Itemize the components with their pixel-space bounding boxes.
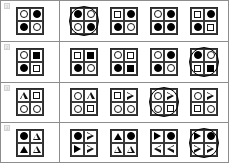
matrix-cell (17, 49, 30, 62)
triangle-right-filled-icon (194, 132, 201, 140)
matrix-cell (151, 62, 164, 75)
matrix-cell (124, 8, 137, 21)
answer-option-d[interactable] (188, 46, 220, 78)
answer-option-b[interactable] (108, 127, 140, 159)
triangle-open-icon (20, 92, 28, 99)
matrix-test-sheet: 1234 (0, 0, 229, 163)
matrix-cell (30, 89, 43, 102)
matrix-cell (151, 89, 164, 102)
circle-open-icon (154, 92, 162, 100)
matrix-cell (17, 62, 30, 75)
question-matrix (16, 129, 44, 157)
square-open-icon (114, 92, 121, 99)
matrix-cell (191, 49, 204, 62)
matrix-cell (111, 21, 124, 34)
matrix-cell (164, 8, 177, 21)
matrix-cell (84, 102, 97, 115)
option-matrix[interactable] (190, 129, 218, 157)
square-open-icon (87, 105, 94, 112)
option-matrix[interactable] (110, 7, 138, 35)
option-matrix[interactable] (70, 129, 98, 157)
matrix-cell (204, 89, 217, 102)
answer-option-c[interactable] (148, 127, 180, 159)
question-matrix (16, 88, 44, 116)
matrix-cell (191, 21, 204, 34)
triangle-right-filled-icon (154, 132, 161, 140)
answer-option-c[interactable] (148, 5, 180, 37)
circle-filled-icon (167, 23, 175, 31)
matrix-cell (17, 8, 30, 21)
option-matrix[interactable] (110, 129, 138, 157)
matrix-cell (84, 49, 97, 62)
option-matrix[interactable] (150, 48, 178, 76)
matrix-cell (124, 130, 137, 143)
answer-option-b[interactable] (108, 46, 140, 78)
option-matrix[interactable] (150, 129, 178, 157)
circle-open-icon (33, 105, 41, 113)
circle-filled-icon (207, 132, 215, 140)
matrix-cell (204, 143, 217, 156)
option-matrix[interactable] (110, 88, 138, 116)
option-matrix[interactable] (70, 88, 98, 116)
answer-option-c[interactable] (148, 86, 180, 118)
triangle-filled-icon (114, 133, 122, 140)
matrix-cell (71, 8, 84, 21)
matrix-cell (84, 143, 97, 156)
matrix-cell (30, 143, 43, 156)
answer-option-d[interactable] (188, 86, 220, 118)
square-open-icon (194, 105, 201, 112)
matrix-cell (124, 102, 137, 115)
matrix-cell (124, 143, 137, 156)
circle-open-icon (20, 10, 28, 18)
matrix-cell (71, 143, 84, 156)
matrix-cell (84, 89, 97, 102)
matrix-cell (71, 62, 84, 75)
option-matrix[interactable] (150, 88, 178, 116)
circle-filled-icon (127, 10, 135, 18)
matrix-cell (191, 143, 204, 156)
matrix-cell (151, 49, 164, 62)
answer-option-a[interactable] (68, 46, 100, 78)
answer-option-d[interactable] (188, 5, 220, 37)
circle-filled-icon (167, 132, 175, 140)
row-number-label: 1 (4, 3, 10, 9)
circle-filled-icon (33, 10, 41, 18)
matrix-cell (124, 62, 137, 75)
answer-option-a[interactable] (68, 86, 100, 118)
option-matrix[interactable] (70, 48, 98, 76)
square-open-icon (127, 52, 134, 59)
circle-open-icon (114, 105, 122, 113)
answer-option-d[interactable] (188, 127, 220, 159)
circle-open-icon (20, 51, 28, 59)
option-matrix[interactable] (150, 7, 178, 35)
option-matrix[interactable] (190, 7, 218, 35)
answer-option-a[interactable] (68, 127, 100, 159)
circle-filled-icon (127, 132, 135, 140)
circle-open-icon (167, 64, 175, 72)
matrix-cell (111, 89, 124, 102)
answer-option-a[interactable] (68, 5, 100, 37)
answer-option-b[interactable] (108, 5, 140, 37)
matrix-cell (30, 49, 43, 62)
option-matrix[interactable] (190, 88, 218, 116)
matrix-cell (17, 21, 30, 34)
option-matrix[interactable] (110, 48, 138, 76)
matrix-cell (164, 49, 177, 62)
circle-filled-icon (74, 10, 82, 18)
matrix-cell (191, 89, 204, 102)
circle-filled-icon (167, 10, 175, 18)
triangle-right-open-icon (87, 145, 94, 153)
option-matrix[interactable] (70, 7, 98, 35)
option-matrix[interactable] (190, 48, 218, 76)
answer-option-c[interactable] (148, 46, 180, 78)
answer-option-b[interactable] (108, 86, 140, 118)
question-row: 3 (0, 82, 229, 123)
circle-open-icon (33, 23, 41, 31)
circle-filled-icon (87, 23, 95, 31)
circle-filled-icon (74, 64, 82, 72)
circle-filled-icon (20, 64, 28, 72)
square-open-icon (33, 65, 40, 72)
matrix-cell (164, 143, 177, 156)
question-matrix (16, 7, 44, 35)
circle-filled-icon (207, 10, 215, 18)
